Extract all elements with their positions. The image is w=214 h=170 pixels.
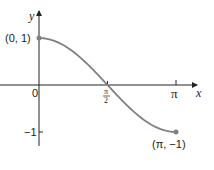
pi-half-denominator: 2 [104,96,108,105]
x-axis-label: x [195,86,202,100]
start-point [37,36,42,41]
cosine-chart: y x 0 π 2 π −1 (0, 1) (π, −1) [0,0,214,170]
neg-one-label: −1 [24,126,37,138]
pi-label: π [171,86,178,101]
y-axis-label: y [28,9,35,23]
pi-half-numerator: π [104,87,108,96]
end-point [174,130,179,135]
start-point-label: (0, 1) [5,32,31,44]
end-point-label: (π, −1) [152,138,186,150]
origin-label: 0 [32,87,38,99]
